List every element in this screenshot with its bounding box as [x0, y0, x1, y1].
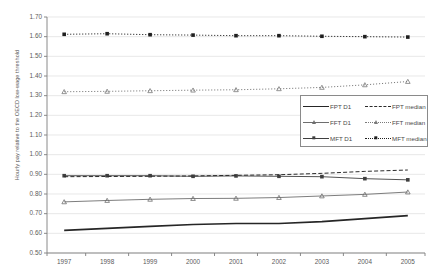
series-marker: [62, 33, 66, 37]
legend-marker-square: [374, 136, 377, 139]
legend-sample: [365, 100, 391, 112]
series-marker: [320, 85, 325, 89]
legend-label: MFT D1: [329, 135, 352, 142]
series-marker: [320, 175, 324, 179]
legend-line-sample: [303, 106, 329, 107]
legend-label: MFT median: [391, 135, 427, 142]
legend-line-sample: [303, 138, 329, 139]
series-marker: [234, 34, 238, 38]
legend-row: FPT D1FPT median: [301, 99, 429, 113]
legend-sample: [303, 132, 329, 144]
series-line: [64, 216, 408, 231]
legend-item-mft-d1[interactable]: MFT D1: [303, 131, 365, 145]
series-marker: [191, 33, 195, 37]
legend-sample: [365, 132, 391, 144]
legend-sample: [303, 100, 329, 112]
legend-item-fft-median[interactable]: FFT median: [365, 115, 429, 129]
legend-item-fpt-d1[interactable]: FPT D1: [303, 99, 365, 113]
legend-marker-square: [312, 136, 315, 139]
legend-line-sample: [303, 122, 329, 123]
legend-sample: [365, 116, 391, 128]
legend-line-sample: [365, 138, 391, 139]
legend-item-fpt-median[interactable]: FPT median: [365, 99, 429, 113]
legend-marker-triangle: [374, 120, 378, 124]
series-line: [64, 82, 408, 92]
legend-row: MFT D1MFT median: [301, 131, 429, 145]
series-marker: [406, 35, 410, 39]
series-marker: [148, 33, 152, 37]
legend-marker-triangle: [312, 120, 316, 124]
legend-label: FPT median: [391, 103, 426, 110]
series-marker: [320, 34, 324, 38]
series-marker: [105, 32, 109, 36]
series-marker: [363, 35, 367, 39]
legend-line-sample: [365, 106, 391, 107]
legend-label: FPT D1: [329, 103, 351, 110]
series-marker: [191, 88, 196, 92]
legend-label: FFT median: [391, 119, 425, 126]
legend-row: FFT D1FFT median: [301, 115, 429, 129]
legend-line-sample: [365, 122, 391, 123]
series-marker: [363, 177, 367, 181]
legend-item-mft-median[interactable]: MFT median: [365, 131, 429, 145]
series-marker: [234, 174, 238, 178]
legend-sample: [303, 116, 329, 128]
legend-item-fft-d1[interactable]: FFT D1: [303, 115, 365, 129]
series-marker: [277, 34, 281, 38]
series-marker: [148, 174, 152, 178]
series-marker: [406, 178, 410, 182]
legend-label: FFT D1: [329, 119, 351, 126]
chart-container: Hourly pay relative to the OECD low-wage…: [0, 0, 434, 276]
chart-legend: FPT D1FPT medianFFT D1FFT medianMFT D1MF…: [300, 95, 428, 147]
